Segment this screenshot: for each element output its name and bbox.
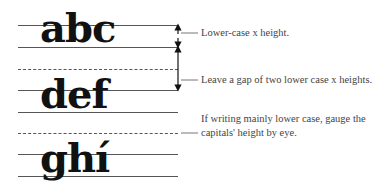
annotation-gap: Leave a gap of two lower case x heights.: [201, 73, 376, 87]
annotation-capitals: If writing mainly lower case, gauge the …: [201, 112, 376, 140]
calligraphy-guide-diagram: abc def ghí Lower-case x height. Leave a…: [0, 0, 380, 196]
annotation-x-height: Lower-case x height.: [201, 26, 376, 40]
